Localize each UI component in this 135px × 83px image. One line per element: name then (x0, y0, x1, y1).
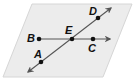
diagram-svg: B E C D A (0, 0, 135, 83)
point-e (70, 37, 75, 42)
label-c: C (88, 42, 97, 54)
label-d: D (89, 5, 97, 17)
label-a: A (33, 48, 42, 60)
geometry-diagram: B E C D A (0, 0, 135, 83)
label-b: B (27, 32, 35, 44)
point-c (91, 37, 96, 42)
point-a (39, 60, 44, 65)
point-b (37, 37, 42, 42)
label-e: E (65, 24, 73, 36)
plane-parallelogram (3, 4, 132, 77)
